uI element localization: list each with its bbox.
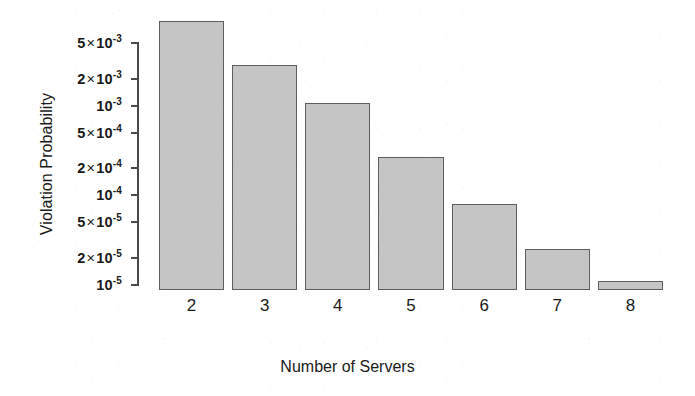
bar [159,21,224,290]
x-axis-tick-label: 4 [301,296,374,316]
bar [525,249,590,290]
y-axis-tick: 5×10-4 [131,132,139,134]
y-axis-tick: 2×10-5 [131,257,139,259]
x-axis-tick-label: 6 [448,296,521,316]
y-axis-tick-label: 5×10-4 [77,125,122,140]
y-axis-tick: 2×10-3 [131,78,139,80]
y-axis-title: Violation Probability [38,54,56,274]
bar-slot: 8 [594,14,667,290]
bar-slot: 5 [374,14,447,290]
y-axis-tick-label: 10-5 [96,278,122,293]
y-axis-tick: 10-5 [131,284,139,286]
x-axis-tick-label: 8 [594,296,667,316]
bar [378,157,443,290]
y-axis-tick-label: 10-3 [96,98,122,113]
y-axis-tick-label: 2×10-4 [77,161,122,176]
bar-slot: 2 [155,14,228,290]
bar [598,281,663,290]
bar [232,65,297,290]
y-axis-tick-label: 5×10-3 [77,36,122,51]
plot-area: 5×10-32×10-310-35×10-42×10-410-45×10-52×… [137,14,673,290]
y-axis-tick-label: 10-4 [96,188,122,203]
bar-slot: 4 [301,14,374,290]
x-axis-tick-label: 7 [521,296,594,316]
bar [452,204,517,290]
x-axis-title: Number of Servers [0,358,695,376]
x-axis-tick-label: 3 [228,296,301,316]
bar-series: 2345678 [155,14,667,290]
chart-figure: Violation Probability 5×10-32×10-310-35×… [0,0,695,396]
bar [305,103,370,290]
y-axis-tick: 2×10-4 [131,167,139,169]
y-axis-tick: 10-3 [131,105,139,107]
y-axis-tick-label: 2×10-5 [77,251,122,266]
y-axis-tick: 5×10-5 [131,221,139,223]
bar-slot: 7 [521,14,594,290]
y-axis-tick-label: 5×10-5 [77,215,122,230]
bar-slot: 6 [448,14,521,290]
y-axis-tick: 5×10-3 [131,42,139,44]
x-axis-tick-label: 2 [155,296,228,316]
bar-slot: 3 [228,14,301,290]
y-axis-tick-label: 2×10-3 [77,71,122,86]
x-axis-tick-label: 5 [374,296,447,316]
y-axis-tick: 10-4 [131,194,139,196]
